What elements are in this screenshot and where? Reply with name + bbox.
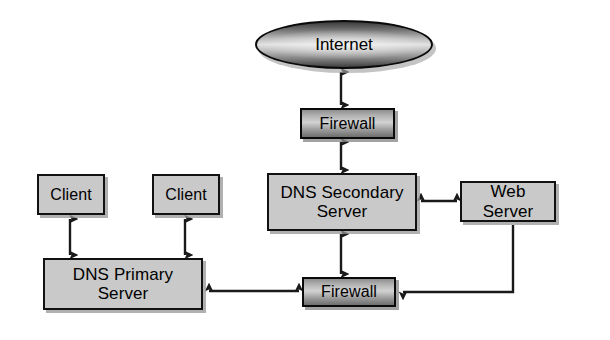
connector-web-server-firewall-bottom [403,225,513,292]
node-internet[interactable]: Internet [255,20,433,69]
node-dns-primary-server-label: DNS Primary Server [45,265,201,303]
node-client-2[interactable]: Client [152,174,220,215]
node-client-1-label: Client [39,186,103,204]
node-firewall-top-label: Firewall [302,115,393,133]
network-diagram-canvas: Internet Firewall DNS Secondary Server W… [0,0,610,340]
node-dns-secondary-server[interactable]: DNS Secondary Server [267,173,417,231]
node-internet-label: Internet [315,35,373,55]
node-firewall-top[interactable]: Firewall [300,108,395,139]
node-firewall-bottom[interactable]: Firewall [302,277,396,307]
node-client-1[interactable]: Client [37,174,105,215]
node-web-server-label: Web Server [462,182,554,220]
node-web-server[interactable]: Web Server [460,181,556,222]
node-dns-secondary-server-label: DNS Secondary Server [269,183,415,221]
node-firewall-bottom-label: Firewall [304,283,394,301]
node-dns-primary-server[interactable]: DNS Primary Server [43,258,203,310]
node-client-2-label: Client [154,186,218,204]
